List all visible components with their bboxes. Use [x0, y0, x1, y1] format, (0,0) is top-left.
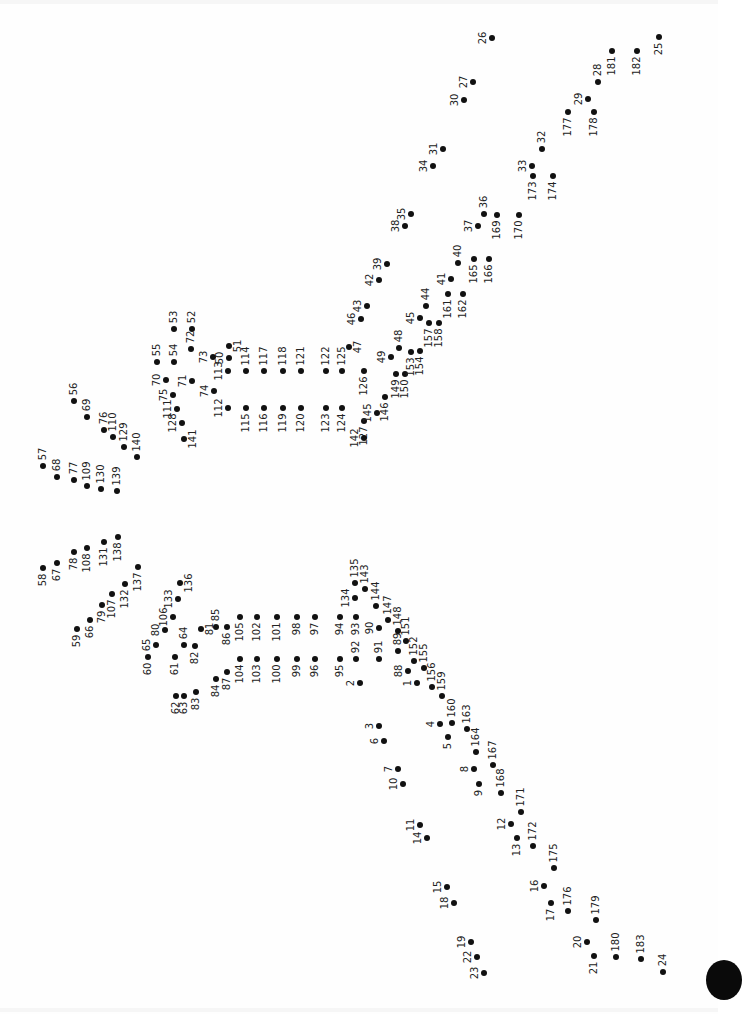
- dot-point: [312, 614, 318, 620]
- dot-number-label: 151: [401, 616, 411, 635]
- dot-number-label: 3: [365, 723, 375, 729]
- dot-number-label: 64: [179, 627, 189, 640]
- dot-point: [172, 654, 178, 660]
- dot-number-label: 11: [406, 819, 416, 832]
- dot-point: [163, 377, 169, 383]
- dot-point: [153, 642, 159, 648]
- dot-point: [595, 79, 601, 85]
- dot-number-label: 83: [191, 698, 201, 711]
- dot-number-label: 101: [272, 622, 282, 641]
- dot-point: [225, 368, 231, 374]
- dot-point: [451, 900, 457, 906]
- dot-point: [40, 565, 46, 571]
- dot-point: [101, 539, 107, 545]
- dot-point: [99, 602, 105, 608]
- dot-number-label: 158: [434, 328, 444, 347]
- dot-number-label: 177: [563, 117, 573, 136]
- dot-point: [476, 781, 482, 787]
- dot-number-label: 112: [214, 398, 224, 417]
- dot-number-label: 137: [133, 572, 143, 591]
- dot-point: [237, 614, 243, 620]
- dot-number-label: 121: [296, 346, 306, 365]
- dot-number-label: 109: [82, 461, 92, 480]
- dot-number-label: 32: [537, 131, 547, 144]
- dot-number-label: 30: [450, 94, 460, 107]
- dot-number-label: 16: [530, 880, 540, 893]
- dot-number-label: 10: [389, 778, 399, 791]
- dot-point: [414, 680, 420, 686]
- dot-number-label: 25: [654, 43, 664, 56]
- dot-point: [361, 368, 367, 374]
- dot-number-label: 170: [514, 220, 524, 239]
- dot-point: [551, 865, 557, 871]
- dot-point: [337, 656, 343, 662]
- dot-point: [54, 560, 60, 566]
- dot-point: [170, 614, 176, 620]
- dot-point: [430, 163, 436, 169]
- dot-number-label: 33: [518, 160, 528, 173]
- dot-number-label: 106: [159, 607, 169, 626]
- dot-point: [298, 405, 304, 411]
- dot-point: [490, 762, 496, 768]
- dot-point: [440, 146, 446, 152]
- dot-number-label: 159: [437, 671, 447, 690]
- dot-point: [261, 368, 267, 374]
- dot-point: [87, 617, 93, 623]
- dot-number-label: 86: [222, 633, 232, 646]
- dot-point: [486, 256, 492, 262]
- dot-point: [84, 414, 90, 420]
- dot-point: [638, 956, 644, 962]
- dot-point: [591, 953, 597, 959]
- dot-number-label: 8: [460, 766, 470, 772]
- dot-point: [193, 689, 199, 695]
- dot-number-label: 39: [373, 258, 383, 271]
- dot-point: [460, 291, 466, 297]
- dot-point: [411, 658, 417, 664]
- dot-point: [175, 596, 181, 602]
- dot-point: [417, 348, 423, 354]
- dot-number-label: 59: [72, 635, 82, 648]
- dot-point: [114, 488, 120, 494]
- dot-number-label: 72: [186, 331, 196, 344]
- dot-number-label: 44: [421, 288, 431, 301]
- dot-point: [192, 643, 198, 649]
- dot-point: [254, 656, 260, 662]
- dot-point: [471, 766, 477, 772]
- dot-number-label: 71: [178, 375, 188, 388]
- dot-number-label: 52: [187, 311, 197, 324]
- dot-point: [396, 345, 402, 351]
- dot-point: [323, 368, 329, 374]
- dot-number-label: 57: [38, 448, 48, 461]
- dot-point: [339, 405, 345, 411]
- dot-number-label: 169: [492, 220, 502, 239]
- dot-number-label: 118: [278, 346, 288, 365]
- dot-number-label: 6: [370, 738, 380, 744]
- dot-number-label: 126: [359, 376, 369, 395]
- dot-number-label: 131: [99, 547, 109, 566]
- dot-point: [261, 405, 267, 411]
- dot-point: [448, 276, 454, 282]
- dot-point: [213, 676, 219, 682]
- dot-point: [171, 326, 177, 332]
- dot-point: [565, 908, 571, 914]
- dot-point: [514, 835, 520, 841]
- dot-point: [541, 883, 547, 889]
- dot-point: [426, 320, 432, 326]
- dot-number-label: 136: [184, 573, 194, 592]
- dot-point: [585, 96, 591, 102]
- dot-number-label: 94: [335, 623, 345, 636]
- dot-point: [353, 656, 359, 662]
- dot-point: [385, 617, 391, 623]
- dot-number-label: 68: [52, 459, 62, 472]
- dot-number-label: 26: [478, 32, 488, 45]
- dot-number-label: 34: [419, 160, 429, 173]
- dot-point: [429, 684, 435, 690]
- scan-edge-bottom: [0, 1008, 718, 1012]
- dot-number-label: 43: [353, 300, 363, 313]
- dot-number-label: 114: [241, 346, 251, 365]
- dot-point: [352, 580, 358, 586]
- dot-point: [109, 591, 115, 597]
- dot-number-label: 90: [365, 622, 375, 635]
- dot-number-label: 176: [563, 886, 573, 905]
- dot-number-label: 172: [528, 821, 538, 840]
